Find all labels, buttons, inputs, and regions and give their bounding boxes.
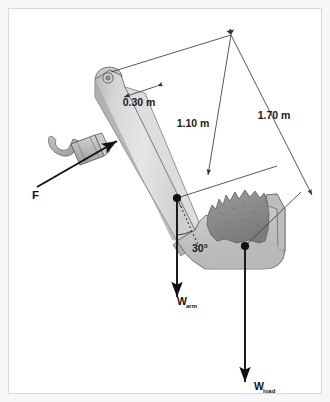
ext-line-pivot-to-apex <box>111 35 231 72</box>
ext-line-cg <box>177 166 277 198</box>
angle-label-30: 30° <box>192 242 208 254</box>
dim-label-1-70: 1.70 m <box>258 109 291 121</box>
force-label-F: F <box>32 189 39 201</box>
arm-pivot-hole <box>106 76 110 80</box>
excavator-arm <box>95 67 199 241</box>
weight-load-subscript: load <box>263 388 276 394</box>
weight-arm-subscript: arm <box>186 303 197 309</box>
figure-root: F 0.30 m 1.10 m 1.70 m <box>0 0 330 402</box>
bucket-load-material <box>207 190 269 243</box>
dim-label-0-30: 0.30 m <box>123 96 156 108</box>
excavator-free-body-diagram: F 0.30 m 1.10 m 1.70 m <box>9 9 322 394</box>
hydraulic-actuator <box>49 133 111 165</box>
dim-label-1-10: 1.10 m <box>177 117 210 129</box>
dim-line-1-10 <box>208 35 231 175</box>
figure-frame: F 0.30 m 1.10 m 1.70 m <box>8 8 322 394</box>
